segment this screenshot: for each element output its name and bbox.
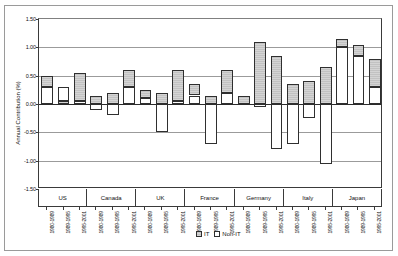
bar-segment-nonit <box>271 104 283 149</box>
period-tick-mark <box>63 207 64 210</box>
bar-us-1995-2001[interactable] <box>74 19 86 187</box>
bar-italy-1980-1989[interactable] <box>287 19 299 187</box>
category-axis: USCanadaUKFranceGermanyItalyJapan <box>38 189 382 207</box>
bar-france-1989-1995[interactable] <box>205 19 217 187</box>
y-tick-label: 1.00 <box>26 44 36 50</box>
bar-group-us <box>39 19 88 187</box>
period-label-us-1980-1989: 1980-1989 <box>49 211 55 234</box>
bar-segment-it <box>369 59 381 87</box>
category-cell-italy: Italy <box>284 189 333 206</box>
bar-segment-nonit <box>74 101 86 104</box>
y-tick-label: 1.50 <box>26 16 36 22</box>
bar-segment-it <box>74 73 86 101</box>
legend-item-nonit: Non-IT <box>214 231 240 237</box>
y-tick-label: 0.00 <box>26 101 36 107</box>
category-label: Germany <box>246 195 271 201</box>
bar-segment-nonit <box>303 104 315 118</box>
legend-swatch-nonit-icon <box>214 231 220 237</box>
plot-area: 1.501.000.500.00-0.50-1.00-1.50 <box>38 18 382 188</box>
bar-segment-it <box>205 96 217 105</box>
bar-uk-1980-1989[interactable] <box>140 19 152 187</box>
period-tick-mark <box>46 207 47 210</box>
y-tick-label: -0.50 <box>24 129 36 135</box>
bar-uk-1989-1995[interactable] <box>156 19 168 187</box>
period-tick-mark <box>341 207 342 210</box>
bar-canada-1980-1989[interactable] <box>90 19 102 187</box>
category-cell-germany: Germany <box>235 189 284 206</box>
bar-uk-1995-2001[interactable] <box>172 19 184 187</box>
period-tick-mark <box>161 207 162 210</box>
period-label-uk-1995-2001: 1995-2001 <box>180 211 186 234</box>
period-tick-mark <box>325 207 326 210</box>
bar-us-1989-1995[interactable] <box>58 19 70 187</box>
bar-segment-nonit <box>41 87 53 104</box>
bar-segment-it <box>238 96 250 105</box>
bar-france-1995-2001[interactable] <box>221 19 233 187</box>
bar-segment-nonit <box>189 96 201 105</box>
bar-italy-1989-1995[interactable] <box>303 19 315 187</box>
period-tick-mark <box>259 207 260 210</box>
bar-segment-it <box>320 67 332 104</box>
bar-japan-1995-2001[interactable] <box>369 19 381 187</box>
period-tick-mark <box>243 207 244 210</box>
bar-canada-1995-2001[interactable] <box>123 19 135 187</box>
bar-segment-it <box>353 45 365 56</box>
y-tick-label: -1.00 <box>24 158 36 164</box>
period-tick-mark <box>79 207 80 210</box>
bar-segment-nonit <box>140 98 152 104</box>
bar-japan-1980-1989[interactable] <box>336 19 348 187</box>
bar-group-canada <box>88 19 137 187</box>
period-tick-mark <box>210 207 211 210</box>
bar-segment-nonit <box>369 87 381 104</box>
period-label-italy-1980-1989: 1980-1989 <box>294 211 300 234</box>
bar-segment-nonit <box>221 93 233 104</box>
period-tick-mark <box>177 207 178 210</box>
bar-group-germany <box>236 19 285 187</box>
bar-canada-1989-1995[interactable] <box>107 19 119 187</box>
chart-legend: IT Non-IT <box>196 231 241 237</box>
period-label-italy-1995-2001: 1995-2001 <box>327 211 333 234</box>
period-tick-mark <box>112 207 113 210</box>
bar-segment-nonit <box>58 87 70 101</box>
period-tick-mark <box>128 207 129 210</box>
bar-segment-it <box>287 84 299 104</box>
period-tick-mark <box>194 207 195 210</box>
period-tick-mark <box>308 207 309 210</box>
bar-segment-it <box>221 70 233 93</box>
bar-japan-1989-1995[interactable] <box>353 19 365 187</box>
category-label: Italy <box>302 195 313 201</box>
bar-segment-nonit <box>172 101 184 104</box>
period-label-canada-1980-1989: 1980-1989 <box>98 211 104 234</box>
period-tick-mark <box>144 207 145 210</box>
bar-germany-1995-2001[interactable] <box>271 19 283 187</box>
legend-label-nonit: Non-IT <box>222 231 240 237</box>
period-label-uk-1989-1995: 1989-1995 <box>163 211 169 234</box>
bar-segment-it <box>271 56 283 104</box>
period-tick-mark <box>292 207 293 210</box>
bar-segment-it <box>58 101 70 104</box>
period-tick-mark <box>95 207 96 210</box>
bar-segment-it <box>172 70 184 101</box>
bar-segment-it <box>90 96 102 105</box>
bar-segment-nonit <box>107 104 119 115</box>
bar-segment-nonit <box>205 104 217 144</box>
bar-france-1980-1989[interactable] <box>189 19 201 187</box>
bar-segment-it <box>303 81 315 104</box>
category-cell-us: US <box>38 189 87 206</box>
period-label-japan-1989-1995: 1989-1995 <box>360 211 366 234</box>
period-tick-mark <box>276 207 277 210</box>
legend-swatch-it-icon <box>196 231 202 237</box>
bar-germany-1980-1989[interactable] <box>238 19 250 187</box>
bar-us-1980-1989[interactable] <box>41 19 53 187</box>
bar-germany-1989-1995[interactable] <box>254 19 266 187</box>
bar-segment-it <box>123 70 135 87</box>
legend-label-it: IT <box>204 231 209 237</box>
bar-italy-1995-2001[interactable] <box>320 19 332 187</box>
category-cell-france: France <box>185 189 234 206</box>
period-label-us-1995-2001: 1995-2001 <box>81 211 87 234</box>
bar-segment-nonit <box>320 104 332 164</box>
category-cell-japan: Japan <box>333 189 382 206</box>
period-label-italy-1989-1995: 1989-1995 <box>311 211 317 234</box>
period-label-germany-1980-1989: 1980-1989 <box>245 211 251 234</box>
period-label-japan-1980-1989: 1980-1989 <box>344 211 350 234</box>
